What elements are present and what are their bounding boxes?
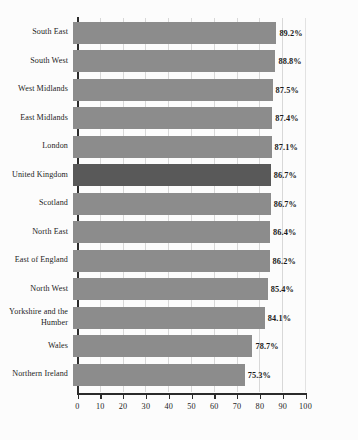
value-label: 85.4% — [268, 285, 294, 294]
bar-row: North West85.4% — [0, 278, 358, 300]
bar — [73, 22, 276, 44]
bar-row: East of England86.2% — [0, 250, 358, 272]
bar — [73, 221, 270, 243]
value-label: 86.7% — [271, 171, 297, 180]
value-label: 75.3% — [245, 370, 271, 379]
tick-50 — [192, 393, 193, 399]
bar-track: 86.4% — [73, 221, 302, 243]
category-label: East Midlands — [0, 113, 72, 123]
bar — [73, 278, 268, 300]
tick-100 — [306, 393, 307, 399]
value-label: 86.2% — [270, 256, 296, 265]
category-label: United Kingdom — [0, 170, 72, 180]
bar-track: 86.7% — [73, 164, 302, 186]
bar-row: East Midlands87.4% — [0, 107, 358, 129]
bar — [73, 107, 272, 129]
value-label: 86.4% — [270, 228, 296, 237]
bar-row: United Kingdom86.7% — [0, 164, 358, 186]
bar-row: Yorkshire and the Humber84.1% — [0, 307, 358, 329]
bar-track: 87.1% — [73, 136, 302, 158]
tick-60 — [214, 393, 215, 399]
tick-90 — [283, 393, 284, 399]
bar-track: 85.4% — [73, 278, 302, 300]
tick-80 — [260, 393, 261, 399]
bar-track: 86.2% — [73, 250, 302, 272]
bar-chart: South East89.2%South West88.8%West Midla… — [0, 0, 358, 440]
bar-row: South West88.8% — [0, 50, 358, 72]
bar — [73, 79, 273, 101]
tick-label-100: 100 — [291, 402, 321, 411]
bar-track: 87.5% — [73, 79, 302, 101]
value-label: 87.1% — [272, 142, 298, 151]
tick-70 — [237, 393, 238, 399]
bar-row: Scotland86.7% — [0, 193, 358, 215]
bar — [73, 335, 252, 357]
bar-track: 87.4% — [73, 107, 302, 129]
value-label: 87.5% — [273, 85, 299, 94]
bar — [73, 136, 272, 158]
category-label: South East — [0, 27, 72, 37]
bar — [73, 250, 270, 272]
bar-row: Northern Ireland75.3% — [0, 364, 358, 386]
bar-row: North East86.4% — [0, 221, 358, 243]
value-label: 84.1% — [265, 313, 291, 322]
category-label: North West — [0, 284, 72, 294]
bar-track: 78.7% — [73, 335, 302, 357]
bar-track: 88.8% — [73, 50, 302, 72]
tick-10 — [100, 393, 101, 399]
bar — [73, 193, 271, 215]
bar-row: West Midlands87.5% — [0, 79, 358, 101]
value-label: 78.7% — [252, 342, 278, 351]
bar-track: 89.2% — [73, 22, 302, 44]
tick-0 — [78, 393, 79, 399]
tick-40 — [169, 393, 170, 399]
bar-row: South East89.2% — [0, 22, 358, 44]
value-label: 86.7% — [271, 199, 297, 208]
category-label: Yorkshire and the Humber — [0, 307, 72, 327]
value-label: 87.4% — [272, 114, 298, 123]
tick-30 — [146, 393, 147, 399]
bar — [73, 307, 265, 329]
category-label: London — [0, 141, 72, 151]
category-label: South West — [0, 56, 72, 66]
category-label: West Midlands — [0, 84, 72, 94]
category-label: Northern Ireland — [0, 369, 72, 379]
bar-highlight — [73, 164, 271, 186]
value-label: 88.8% — [275, 57, 301, 66]
bar — [73, 50, 275, 72]
bar-track: 86.7% — [73, 193, 302, 215]
value-label: 89.2% — [276, 28, 302, 37]
category-label: North East — [0, 227, 72, 237]
bar-row: Wales78.7% — [0, 335, 358, 357]
bar — [73, 364, 245, 386]
bar-track: 75.3% — [73, 364, 302, 386]
bar-track: 84.1% — [73, 307, 302, 329]
category-label: Wales — [0, 341, 72, 351]
category-label: East of England — [0, 255, 72, 265]
bar-row: London87.1% — [0, 136, 358, 158]
category-label: Scotland — [0, 198, 72, 208]
tick-20 — [123, 393, 124, 399]
